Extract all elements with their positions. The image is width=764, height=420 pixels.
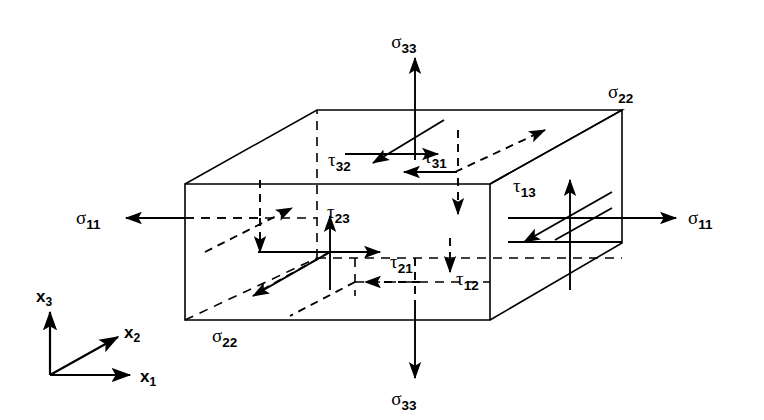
stress-cube-figure: σ33 σ33 σ11 σ11 σ22 σ22 τ32 τ31 xyxy=(0,0,764,420)
tau-32-subscript: 32 xyxy=(336,159,351,174)
x2-axis-label: x2 xyxy=(124,323,140,345)
cube-right-face xyxy=(490,110,622,320)
hidden-edge-bottom-left-diagonal xyxy=(185,258,317,320)
sigma-22-back-symbol: σ xyxy=(608,81,618,102)
x1-axis-label: x1 xyxy=(140,367,156,389)
sigma-11-left-subscript: 11 xyxy=(86,217,101,232)
tau-12-subscript: 12 xyxy=(464,278,479,293)
cube-hidden-edges xyxy=(185,110,622,320)
sigma-22-back-label: σ22 xyxy=(608,81,633,106)
sigma-33-bottom-subscript: 33 xyxy=(402,398,418,413)
sigma-22-back-subscript: 22 xyxy=(618,91,633,106)
coordinate-axes xyxy=(50,312,130,375)
stress-diagram-svg: σ33 σ33 σ11 σ11 σ22 σ22 τ32 τ31 xyxy=(0,0,764,420)
sigma-22-front-subscript: 22 xyxy=(222,335,237,350)
sigma-11-left-label: σ11 xyxy=(76,207,101,232)
sigma-33-top-symbol: σ xyxy=(391,31,401,52)
tau-13-subscript: 13 xyxy=(521,185,537,200)
x1-axis-subscript: 1 xyxy=(149,375,156,389)
tau-21-label: τ21 xyxy=(390,251,413,276)
x3-axis-label: x3 xyxy=(36,287,52,309)
x2-axis-subscript: 2 xyxy=(133,331,140,345)
sigma-33-top-label: σ33 xyxy=(391,31,417,56)
tau-12-label: τ12 xyxy=(456,268,479,293)
x3-axis-subscript: 3 xyxy=(45,295,52,309)
back-face-dashed-diagonal xyxy=(290,282,355,316)
tau-32-label: τ32 xyxy=(328,149,351,174)
tau-31-label: τ31 xyxy=(424,146,447,171)
sigma-11-right-label: σ11 xyxy=(688,207,713,232)
sigma-11-right-subscript: 11 xyxy=(698,217,713,232)
x2-axis-arrow xyxy=(50,337,118,375)
back-left-dashed-diagonal-arrow xyxy=(205,208,292,252)
sigma-33-bottom-symbol: σ xyxy=(391,388,401,409)
tau-23-subscript: 23 xyxy=(335,211,351,226)
sigma-22-back-arrow xyxy=(555,208,612,240)
shear-arrows-front-face xyxy=(258,216,380,290)
sigma-33-top-subscript: 33 xyxy=(402,41,418,56)
tau-13-label: τ13 xyxy=(513,175,536,200)
sigma-22-front-label: σ22 xyxy=(212,325,237,350)
tau-21-subscript: 21 xyxy=(398,261,414,276)
top-face-hidden-diagonal-arrow xyxy=(455,130,545,172)
sigma-22-front-symbol: σ xyxy=(212,325,222,346)
sigma-11-right-symbol: σ xyxy=(688,207,698,228)
tau-31-subscript: 31 xyxy=(432,156,448,171)
right-face-diagonal-arrow xyxy=(524,192,612,242)
sigma-11-left-symbol: σ xyxy=(76,207,86,228)
hidden-interior-arrows xyxy=(205,180,490,316)
sigma-33-bottom-label: σ33 xyxy=(391,388,417,413)
